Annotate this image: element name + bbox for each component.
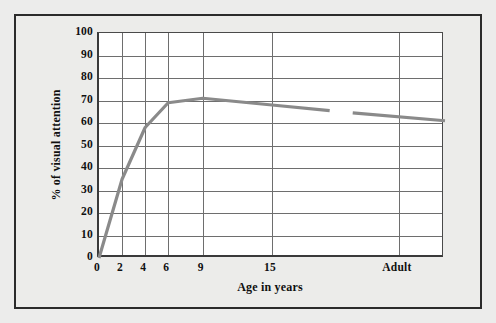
- x-tick-label: Adult: [362, 262, 432, 274]
- x-axis-tick-labels: 0246915Adult: [0, 0, 496, 323]
- y-axis-title: % of visual attention: [49, 89, 64, 200]
- y-axis-title-wrapper: % of visual attention: [48, 32, 64, 257]
- x-axis-title: Age in years: [97, 280, 443, 295]
- line-chart: 0102030405060708090100 0246915Adult % of…: [0, 0, 496, 323]
- x-tick-label: 15: [250, 262, 290, 274]
- x-tick-label: 9: [181, 262, 221, 274]
- figure-root: 0102030405060708090100 0246915Adult % of…: [0, 0, 496, 323]
